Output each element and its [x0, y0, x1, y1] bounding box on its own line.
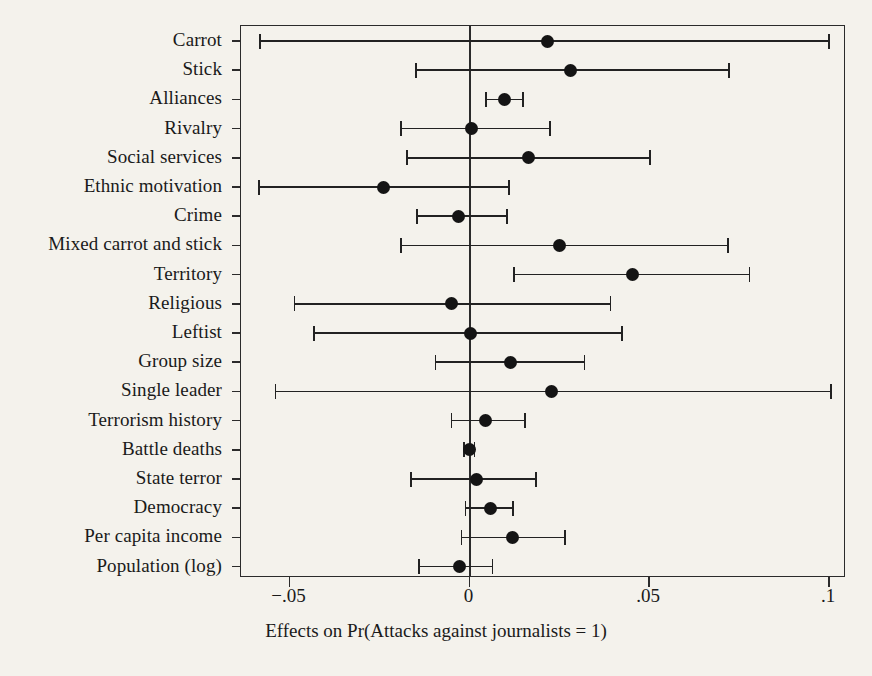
- confidence-interval-cap-high: [535, 472, 537, 487]
- y-axis-label: Ethnic motivation: [0, 176, 222, 195]
- y-axis-tick: [232, 566, 241, 568]
- y-axis-tick: [232, 157, 241, 159]
- confidence-interval-cap-high: [506, 209, 508, 224]
- confidence-interval-cap-low: [259, 34, 261, 49]
- confidence-interval-cap-high: [508, 180, 510, 195]
- confidence-interval-cap-low: [461, 530, 463, 545]
- point-estimate-marker: [504, 356, 517, 369]
- confidence-interval-cap-high: [830, 384, 832, 399]
- y-axis-tick: [232, 391, 241, 393]
- y-axis-tick: [232, 478, 241, 480]
- confidence-interval-cap-low: [313, 326, 315, 341]
- confidence-interval-cap-low: [406, 150, 408, 165]
- y-axis-tick: [232, 303, 241, 305]
- x-axis-tick-label: −.05: [244, 586, 334, 606]
- confidence-interval-cap-low: [400, 121, 402, 136]
- x-axis-tick-label: .05: [603, 586, 693, 606]
- point-estimate-marker: [498, 93, 511, 106]
- point-estimate-marker: [522, 151, 535, 164]
- confidence-interval-cap-low: [465, 501, 467, 516]
- zero-reference-line: [469, 26, 471, 576]
- confidence-interval-cap-high: [728, 63, 730, 78]
- y-axis-tick: [232, 40, 241, 42]
- y-axis-tick: [232, 507, 241, 509]
- x-axis-title: Effects on Pr(Attacks against journalist…: [0, 620, 872, 642]
- point-estimate-marker: [452, 210, 465, 223]
- confidence-interval-cap-low: [410, 472, 412, 487]
- confidence-interval-cap-low: [513, 267, 515, 282]
- y-axis-label: Crime: [0, 205, 222, 224]
- y-axis-tick: [232, 245, 241, 247]
- confidence-interval-cap-high: [512, 501, 514, 516]
- confidence-interval-cap-high: [727, 238, 729, 253]
- y-axis-tick: [232, 99, 241, 101]
- confidence-interval-cap-high: [828, 34, 830, 49]
- y-axis-tick: [232, 69, 241, 71]
- confidence-interval-cap-low: [485, 92, 487, 107]
- y-axis-label: Stick: [0, 59, 222, 78]
- confidence-interval-cap-high: [549, 121, 551, 136]
- point-estimate-marker: [479, 414, 492, 427]
- point-estimate-marker: [564, 64, 577, 77]
- confidence-interval-cap-high: [522, 92, 524, 107]
- x-axis-tick-label: .1: [783, 586, 872, 606]
- y-axis-label: Democracy: [0, 497, 222, 516]
- y-axis-label: Carrot: [0, 30, 222, 49]
- confidence-interval-cap-low: [418, 559, 420, 574]
- point-estimate-marker: [464, 327, 477, 340]
- confidence-interval-cap-high: [492, 559, 494, 574]
- confidence-interval-cap-low: [258, 180, 260, 195]
- coefficient-plot-figure: CarrotStickAlliancesRivalrySocial servic…: [0, 0, 872, 676]
- y-axis-tick: [232, 361, 241, 363]
- y-axis-label: Population (log): [0, 556, 222, 575]
- confidence-interval-cap-low: [400, 238, 402, 253]
- point-estimate-marker: [626, 268, 639, 281]
- confidence-interval-cap-high: [610, 296, 612, 311]
- y-axis-tick: [232, 274, 241, 276]
- point-estimate-marker: [377, 181, 390, 194]
- confidence-interval-cap-low: [275, 384, 277, 399]
- point-estimate-marker: [453, 560, 466, 573]
- confidence-interval-cap-high: [584, 355, 586, 370]
- point-estimate-marker: [484, 502, 497, 515]
- y-axis-label: Mixed carrot and stick: [0, 234, 222, 253]
- confidence-interval-cap-high: [749, 267, 751, 282]
- y-axis-label: Single leader: [0, 380, 222, 399]
- confidence-interval-cap-low: [415, 63, 417, 78]
- confidence-interval-cap-low: [294, 296, 296, 311]
- point-estimate-marker: [470, 473, 483, 486]
- y-axis-label: Per capita income: [0, 526, 222, 545]
- y-axis-label: Religious: [0, 293, 222, 312]
- y-axis-category-labels: CarrotStickAlliancesRivalrySocial servic…: [0, 0, 222, 676]
- y-axis-tick: [232, 449, 241, 451]
- x-axis-tick-label: 0: [423, 586, 513, 606]
- y-axis-label: Rivalry: [0, 118, 222, 137]
- point-estimate-marker: [445, 297, 458, 310]
- y-axis-tick: [232, 332, 241, 334]
- y-axis-tick: [232, 128, 241, 130]
- point-estimate-marker: [545, 385, 558, 398]
- y-axis-label: Terrorism history: [0, 410, 222, 429]
- confidence-interval-cap-low: [451, 413, 453, 428]
- y-axis-tick: [232, 420, 241, 422]
- y-axis-tick: [232, 186, 241, 188]
- confidence-interval-cap-high: [649, 150, 651, 165]
- y-axis-label: Alliances: [0, 88, 222, 107]
- point-estimate-marker: [553, 239, 566, 252]
- point-estimate-marker: [506, 531, 519, 544]
- y-axis-tick: [232, 537, 241, 539]
- confidence-interval-cap-high: [564, 530, 566, 545]
- y-axis-label: Social services: [0, 147, 222, 166]
- y-axis-label: Leftist: [0, 322, 222, 341]
- y-axis-tick: [232, 215, 241, 217]
- confidence-interval-cap-low: [416, 209, 418, 224]
- confidence-interval-cap-low: [435, 355, 437, 370]
- confidence-interval-cap-high: [621, 326, 623, 341]
- y-axis-label: State terror: [0, 468, 222, 487]
- plot-area: [240, 25, 845, 577]
- point-estimate-marker: [541, 35, 554, 48]
- y-axis-label: Group size: [0, 351, 222, 370]
- confidence-interval-cap-high: [524, 413, 526, 428]
- point-estimate-marker: [465, 122, 478, 135]
- y-axis-label: Battle deaths: [0, 439, 222, 458]
